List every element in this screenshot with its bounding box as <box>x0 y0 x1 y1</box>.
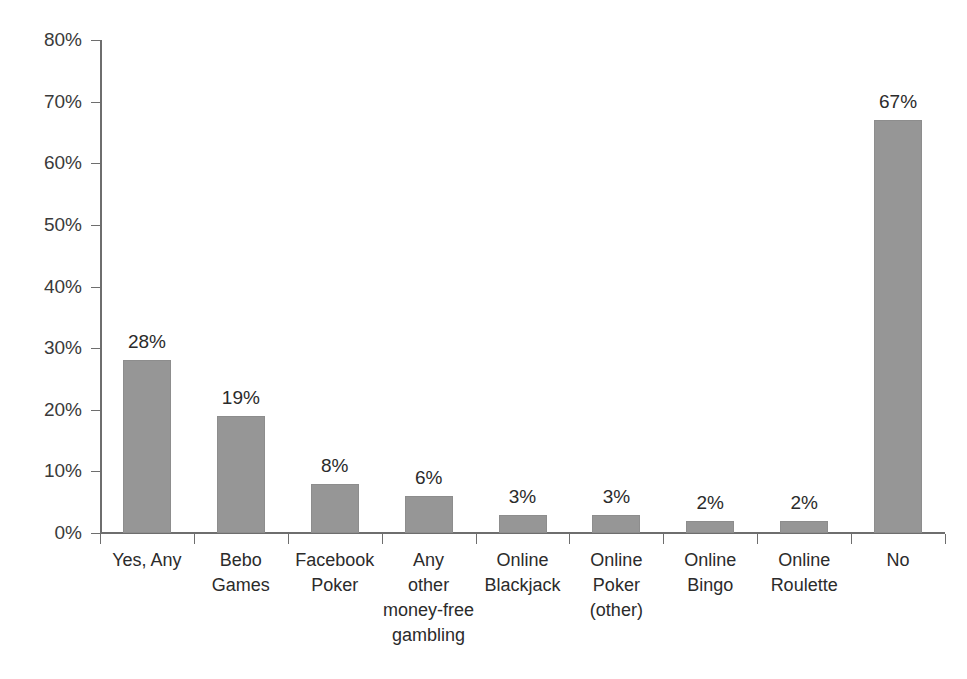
x-axis-tick <box>663 534 664 544</box>
y-axis-tick-label: 60% <box>26 153 82 172</box>
y-axis-tick-label: 10% <box>26 461 82 480</box>
bar <box>686 521 734 533</box>
y-axis-tick-label: 20% <box>26 400 82 419</box>
bar <box>499 515 547 533</box>
y-axis-tick <box>91 225 100 226</box>
x-axis-tick <box>569 534 570 544</box>
bar <box>217 416 265 533</box>
x-axis-tick <box>288 534 289 544</box>
bar-value-label: 28% <box>97 332 197 351</box>
y-axis-tick <box>91 471 100 472</box>
bar-chart: 80%70%60%50%40%30%20%10%0% 28%19%8%6%3%3… <box>0 0 967 679</box>
bar-value-label: 67% <box>848 92 948 111</box>
y-axis-tick <box>91 410 100 411</box>
bar <box>123 360 171 533</box>
y-axis-tick-label: 30% <box>26 338 82 357</box>
y-axis-tick <box>91 163 100 164</box>
bar-value-label: 2% <box>660 493 760 512</box>
x-axis-tick <box>100 534 101 544</box>
y-axis-tick-label: 0% <box>26 523 82 542</box>
y-axis-tick-label: 50% <box>26 215 82 234</box>
y-axis-tick-label: 40% <box>26 277 82 296</box>
x-axis-tick <box>757 534 758 544</box>
y-axis-tick-label: 70% <box>26 92 82 111</box>
x-axis-tick <box>382 534 383 544</box>
bar-value-label: 3% <box>473 487 573 506</box>
bar-value-label: 6% <box>379 468 479 487</box>
x-axis-tick <box>476 534 477 544</box>
bar <box>311 484 359 533</box>
bar-value-label: 2% <box>754 493 854 512</box>
x-axis-tick <box>194 534 195 544</box>
y-axis-tick <box>91 102 100 103</box>
y-axis-line <box>100 40 102 534</box>
y-axis-tick <box>91 533 100 534</box>
x-axis-tick <box>945 534 946 544</box>
bar <box>874 120 922 533</box>
bar-value-label: 3% <box>566 487 666 506</box>
x-axis-tick <box>851 534 852 544</box>
y-axis-tick <box>91 40 100 41</box>
y-axis-tick <box>91 287 100 288</box>
bar-value-label: 19% <box>191 388 291 407</box>
bar-value-label: 8% <box>285 456 385 475</box>
y-axis-tick-label: 80% <box>26 30 82 49</box>
bar <box>405 496 453 533</box>
x-axis-category-label: No <box>828 548 967 573</box>
bar <box>780 521 828 533</box>
bar <box>592 515 640 533</box>
